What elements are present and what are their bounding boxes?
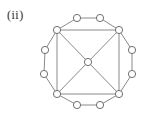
- graph-node: [115, 90, 122, 97]
- graph-node: [96, 14, 103, 21]
- graph-node: [96, 101, 103, 108]
- graph-edge: [88, 30, 119, 62]
- graph-node: [53, 90, 60, 97]
- graph-edge: [88, 62, 119, 94]
- figure-panel: (ii): [0, 0, 145, 117]
- graph-node: [41, 46, 48, 53]
- graph-node: [128, 46, 135, 53]
- figure-label: (ii): [7, 9, 24, 21]
- graph-node: [128, 70, 135, 77]
- graph-node: [115, 26, 122, 33]
- graph-edge: [57, 62, 88, 94]
- graph-node: [53, 26, 60, 33]
- graph-node: [73, 101, 80, 108]
- graph-node: [40, 70, 47, 77]
- graph-node: [84, 58, 91, 65]
- graph-edge: [57, 30, 88, 62]
- graph-node: [73, 14, 80, 21]
